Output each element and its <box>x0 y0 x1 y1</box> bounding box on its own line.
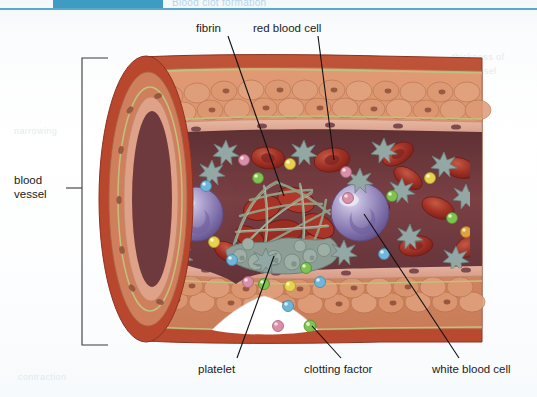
label-fibrin: fibrin <box>196 22 221 35</box>
label-red-blood-cell: red blood cell <box>253 22 321 35</box>
white-blood-cell-right <box>331 183 389 241</box>
label-white-blood-cell: white blood cell <box>432 363 511 376</box>
label-platelet: platelet <box>198 363 235 376</box>
vessel-cut-end <box>99 56 193 342</box>
label-blood-vessel-line2: vessel <box>14 188 47 200</box>
label-clotting-factor: clotting factor <box>304 363 372 376</box>
blood-vessel-illustration <box>0 0 537 397</box>
figure-canvas: Blood clot formation thickness of the ve… <box>0 0 537 397</box>
label-blood-vessel-line1: blood <box>14 174 42 186</box>
label-blood-vessel: blood vessel <box>14 174 72 201</box>
